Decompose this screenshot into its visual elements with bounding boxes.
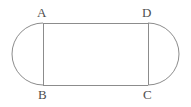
right-semicircle-arc (148, 23, 179, 85)
vertex-label-b: B (38, 88, 47, 101)
geometry-canvas (0, 0, 191, 107)
left-semicircle-arc (12, 23, 43, 85)
vertex-label-a: A (37, 6, 46, 19)
geometry-figure: A D B C (0, 0, 191, 107)
vertex-label-d: D (142, 6, 151, 19)
vertex-label-c: C (143, 88, 152, 101)
